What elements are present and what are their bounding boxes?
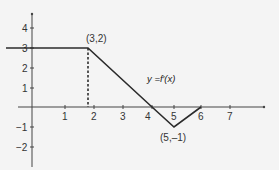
corner-point-label: (3,2) [86, 33, 107, 44]
derivative-graph: 1 2 3 4 5 6 7 4 3 2 1 −1 −2 (3,2) y =f′(… [0, 0, 279, 170]
x-tick-label: 6 [198, 111, 204, 122]
min-point-label: (5,–1) [160, 132, 186, 143]
y-tick-label: −1 [16, 122, 28, 133]
plot-area: 1 2 3 4 5 6 7 4 3 2 1 −1 −2 (3,2) y =f′(… [0, 0, 279, 170]
y-tick-label: 2 [22, 63, 28, 74]
x-tick-label: 4 [145, 111, 151, 122]
x-tick-label: 5 [171, 111, 177, 122]
y-tick-label: 4 [22, 23, 28, 34]
x-tick-label: 2 [91, 111, 97, 122]
y-tick-label: −2 [16, 142, 28, 153]
y-tick-label: 1 [22, 83, 28, 94]
x-tick-label: 3 [120, 111, 126, 122]
x-tick-label: 7 [227, 111, 233, 122]
x-tick-label: 1 [62, 111, 68, 122]
y-axis-arrow-icon [31, 13, 33, 15]
function-label: y =f′(x) [146, 73, 175, 84]
x-axis-arrow-icon [263, 106, 265, 108]
